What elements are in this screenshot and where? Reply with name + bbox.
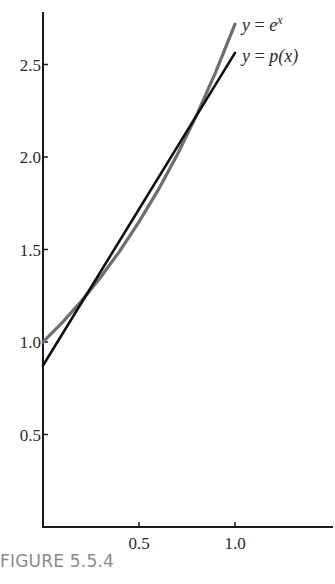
axes: 0.51.01.52.02.50.51.0 bbox=[20, 12, 333, 553]
exp-curve bbox=[43, 24, 235, 342]
y-tick-label: 1.0 bbox=[20, 333, 41, 352]
plot-lines bbox=[43, 24, 235, 365]
x-tick-label: 0.5 bbox=[128, 534, 149, 553]
y-tick-label: 0.5 bbox=[20, 426, 41, 445]
y-tick-label: 2.5 bbox=[20, 56, 41, 75]
line-chart: 0.51.01.52.02.50.51.0 y = ex y = p(x) bbox=[0, 0, 335, 584]
figure-caption: FIGURE 5.5.4 bbox=[0, 551, 114, 571]
legend-label-p: y = p(x) bbox=[240, 46, 298, 67]
legend: y = ex y = p(x) bbox=[240, 13, 298, 67]
y-tick-label: 2.0 bbox=[20, 148, 41, 167]
x-tick-label: 1.0 bbox=[224, 534, 245, 553]
linear-approx-line bbox=[43, 53, 235, 366]
legend-label-exp: y = ex bbox=[240, 13, 283, 35]
y-tick-label: 1.5 bbox=[20, 241, 41, 260]
